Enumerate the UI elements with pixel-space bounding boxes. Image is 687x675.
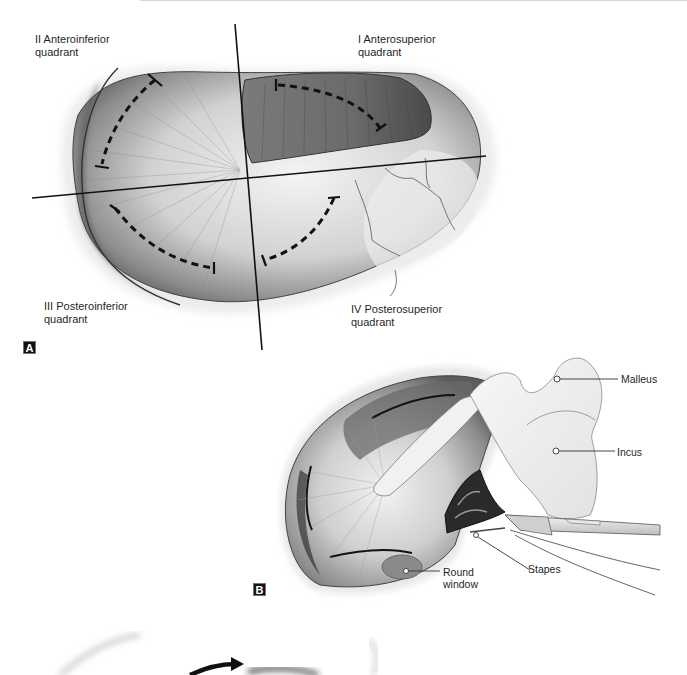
callout-round-window-line1: Round — [443, 566, 474, 578]
panel-b-middle-ear-exposure: Malleus Incus Stapes Roundwindow B — [0, 0, 687, 675]
rotation-arrow-head — [231, 657, 244, 671]
callout-stapes: Stapes — [528, 563, 561, 575]
callout-round-window-line2: window — [443, 578, 478, 590]
panel-letter-b: B — [253, 583, 266, 596]
callout-round-window: Roundwindow — [443, 566, 478, 590]
panel-b-illustration — [0, 0, 687, 675]
callout-malleus: Malleus — [621, 373, 657, 385]
rotation-arrow-shaft — [190, 664, 235, 675]
callout-incus: Incus — [617, 446, 642, 458]
